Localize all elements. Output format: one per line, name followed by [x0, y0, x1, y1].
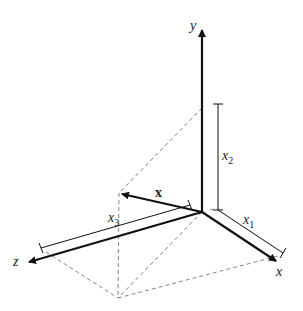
z-axis-label: z [12, 254, 19, 269]
dimension-brackets [39, 104, 286, 258]
x2-label: x2 [221, 148, 233, 166]
vector-x-label: x [155, 185, 162, 200]
coordinate-diagram: y x z x x2 x1 x3 [0, 0, 303, 311]
x-axis-label: x [275, 264, 283, 279]
x3-label: x3 [107, 210, 119, 228]
axes [29, 30, 276, 262]
y-axis-label: y [188, 18, 197, 33]
x-axis [202, 212, 276, 261]
vector-x [122, 194, 202, 212]
x1-bracket [218, 210, 283, 253]
